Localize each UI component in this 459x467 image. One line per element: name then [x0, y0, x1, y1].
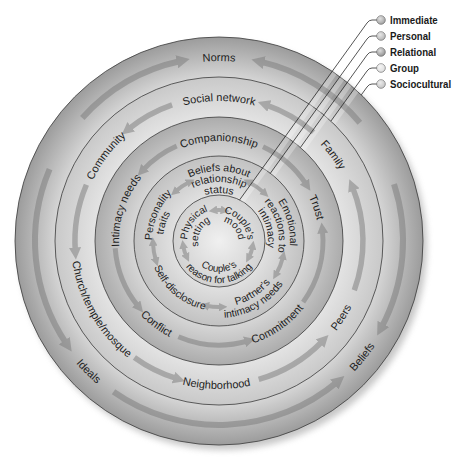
legend-item-personal: Personal [377, 29, 431, 42]
legend-dot-highlight [377, 48, 386, 57]
leader-line-sociocultural [361, 84, 377, 95]
concentric-context-diagram: Norms Beliefs Ideals Social network Fami… [0, 0, 459, 467]
svg-text:Norms: Norms [202, 51, 236, 64]
legend-label: Relational [390, 45, 436, 58]
legend-dot-highlight [377, 80, 386, 89]
label-norms: Norms [202, 51, 236, 64]
legend-label: Immediate [390, 13, 438, 26]
legend-label: Group [390, 61, 419, 74]
legend: Immediate Personal Relational Group Soci… [377, 13, 451, 90]
double-arrow-icon [206, 306, 221, 307]
legend-label: Sociocultural [390, 77, 451, 90]
legend-item-sociocultural: Sociocultural [377, 77, 451, 90]
legend-dot-highlight [377, 16, 386, 25]
legend-item-immediate: Immediate [377, 13, 438, 26]
legend-item-relational: Relational [377, 45, 436, 58]
legend-item-group: Group [377, 61, 420, 74]
legend-dot-highlight [377, 64, 386, 73]
legend-dot-highlight [377, 32, 386, 41]
legend-label: Personal [390, 29, 431, 42]
